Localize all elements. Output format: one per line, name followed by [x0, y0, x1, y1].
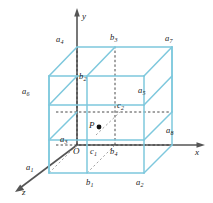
label-a2-sub: 2: [140, 182, 143, 188]
label-a5-sub: 5: [142, 90, 145, 96]
edge-right-mid-depth: [144, 76, 172, 105]
label-c2-sub: 2: [121, 105, 124, 111]
depth-dash-p: [96, 112, 120, 135]
label-c2: c2: [117, 101, 124, 110]
edge-top-right-depth: [144, 47, 172, 76]
label-b3-sub: 3: [114, 37, 117, 43]
edge-top-left-depth: [49, 47, 77, 76]
edge-right-bottom-depth: [144, 145, 172, 173]
label-b4: b4: [110, 147, 117, 156]
axis-label-z: z: [22, 188, 26, 197]
origin-label: O: [73, 147, 80, 156]
label-a8-sub: 8: [170, 130, 173, 136]
point-p-label: P: [89, 121, 95, 130]
point-p-group: [97, 125, 102, 130]
label-a1-sub: 1: [30, 167, 33, 173]
label-c1: c1: [90, 147, 97, 156]
point-p-dot: [97, 125, 102, 130]
label-a4-sub: 4: [60, 39, 63, 45]
label-c1-sub: 1: [94, 151, 97, 157]
axis-label-x: x: [195, 148, 199, 157]
label-a1: a1: [26, 163, 33, 172]
label-b1-sub: 1: [90, 182, 93, 188]
label-b2-sub: 2: [83, 76, 86, 82]
edge-top-mid-depth: [87, 47, 115, 76]
label-a6: a6: [22, 87, 29, 96]
axis-y-arrowhead: [74, 8, 80, 17]
label-a3: a3: [60, 135, 67, 144]
label-b2: b2: [79, 72, 86, 81]
label-a8: a8: [166, 126, 173, 135]
axis-label-y: y: [82, 12, 86, 21]
label-a4: a4: [56, 35, 63, 44]
edge-left-mid-depth: [49, 76, 77, 105]
label-a7-sub: 7: [169, 38, 172, 44]
label-b1: b1: [86, 178, 93, 187]
label-a2: a2: [136, 178, 143, 187]
label-a7: a7: [165, 34, 172, 43]
label-b3: b3: [110, 33, 117, 42]
label-a3-sub: 3: [64, 139, 67, 145]
label-a5: a5: [138, 86, 145, 95]
label-a6-sub: 6: [26, 91, 29, 97]
figure-container: y x z O P a1 a2 a3 a4 a5 a6 a7 a8 b1 b2 …: [0, 0, 213, 203]
label-b4-sub: 4: [114, 151, 117, 157]
